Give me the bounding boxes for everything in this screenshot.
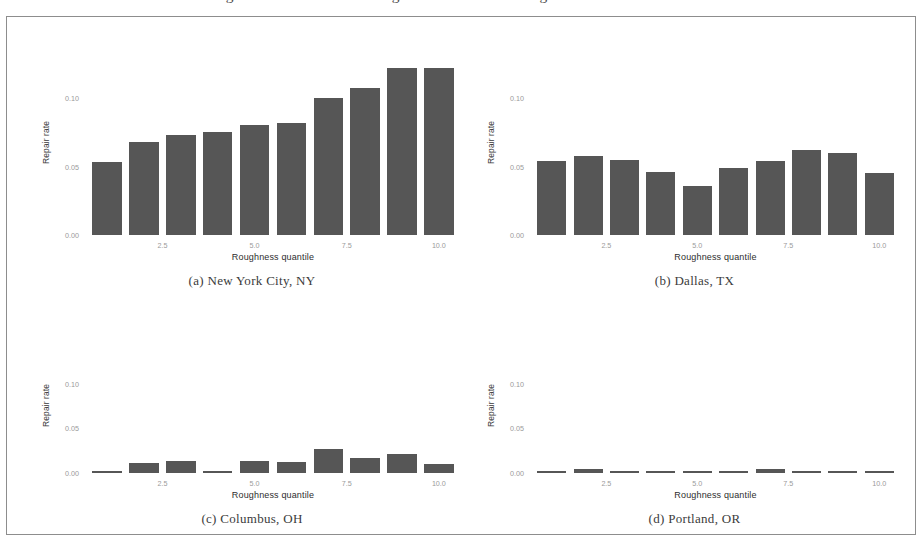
bar (574, 156, 603, 235)
y-tick-label: 0.00 (43, 469, 79, 478)
bar (277, 462, 306, 473)
bar (92, 162, 121, 235)
panel-caption-d: (d) Portland, OR (482, 511, 907, 527)
bar (424, 464, 453, 473)
y-tick-label: 0.00 (488, 231, 524, 240)
bar (610, 160, 639, 235)
bar (828, 153, 857, 235)
bar (166, 461, 195, 473)
y-axis-label: Repair rate (486, 383, 496, 426)
y-tick-label: 0.00 (43, 231, 79, 240)
x-axis-label: Roughness quantile (530, 490, 901, 500)
bar (865, 173, 894, 235)
x-tick-label: 2.5 (586, 479, 626, 488)
panel-a: 0.000.050.10Repair rate2.55.07.510.0Roug… (37, 31, 467, 281)
x-tick-label: 10.0 (419, 241, 459, 250)
bar (203, 471, 232, 473)
bar (129, 463, 158, 473)
x-tick-label: 2.5 (142, 241, 182, 250)
y-axis-label: Repair rate (486, 121, 496, 164)
bar (314, 98, 343, 235)
y-tick-label: 0.10 (488, 94, 524, 103)
x-tick-label: 7.5 (768, 479, 808, 488)
bar (574, 469, 603, 473)
x-tick-label: 10.0 (859, 241, 899, 250)
bar (683, 471, 712, 473)
plot-area-d: 0.000.050.10Repair rate2.55.07.510.0Roug… (530, 357, 901, 473)
panel-c: 0.000.050.10Repair rate2.55.07.510.0Roug… (37, 335, 467, 535)
panel-caption-c: (c) Columbus, OH (37, 511, 467, 527)
panel-d: 0.000.050.10Repair rate2.55.07.510.0Roug… (482, 335, 907, 535)
x-tick-label: 7.5 (768, 241, 808, 250)
bar (828, 471, 857, 473)
y-tick-label: 0.00 (488, 469, 524, 478)
bar (240, 125, 269, 235)
y-tick-label: 0.10 (43, 94, 79, 103)
bar (350, 88, 379, 235)
bar (792, 471, 821, 473)
x-axis-label: Roughness quantile (85, 252, 461, 262)
panel-b: 0.000.050.10Repair rate2.55.07.510.0Roug… (482, 31, 907, 281)
bar (646, 471, 675, 473)
x-tick-label: 5.0 (677, 479, 717, 488)
bar (129, 142, 158, 235)
bar (314, 449, 343, 473)
x-axis-label: Roughness quantile (530, 252, 901, 262)
bar (424, 68, 453, 235)
bar (203, 132, 232, 235)
bar (792, 150, 821, 235)
bar (719, 471, 748, 473)
bar (92, 471, 121, 473)
x-tick-label: 10.0 (859, 479, 899, 488)
bar (350, 458, 379, 473)
plot-area-c: 0.000.050.10Repair rate2.55.07.510.0Roug… (85, 357, 461, 473)
x-tick-label: 10.0 (419, 479, 459, 488)
bar (683, 186, 712, 235)
bar (387, 68, 416, 235)
bar (646, 172, 675, 235)
bar (865, 471, 894, 473)
bar (719, 168, 748, 235)
bar (610, 471, 639, 473)
bar (387, 454, 416, 473)
y-axis-label: Repair rate (41, 383, 51, 426)
figure-title: Figure 13: Local Road Roughness and Resu… (0, 0, 924, 4)
panel-caption-b: (b) Dallas, TX (482, 273, 907, 289)
x-axis-label: Roughness quantile (85, 490, 461, 500)
bar (277, 123, 306, 235)
bar (240, 461, 269, 473)
x-tick-label: 7.5 (327, 479, 367, 488)
x-tick-label: 5.0 (235, 241, 275, 250)
bar (166, 135, 195, 235)
bar (537, 161, 566, 235)
x-tick-label: 7.5 (327, 241, 367, 250)
bar (756, 161, 785, 235)
panel-caption-a: (a) New York City, NY (37, 273, 467, 289)
x-tick-label: 5.0 (235, 479, 275, 488)
plot-area-b: 0.000.050.10Repair rate2.55.07.510.0Roug… (530, 57, 901, 235)
bar (756, 469, 785, 473)
figure-frame: 0.000.050.10Repair rate2.55.07.510.0Roug… (6, 16, 916, 535)
x-tick-label: 2.5 (142, 479, 182, 488)
bar (537, 471, 566, 473)
x-tick-label: 5.0 (677, 241, 717, 250)
y-axis-label: Repair rate (41, 121, 51, 164)
x-tick-label: 2.5 (586, 241, 626, 250)
plot-area-a: 0.000.050.10Repair rate2.55.07.510.0Roug… (85, 57, 461, 235)
